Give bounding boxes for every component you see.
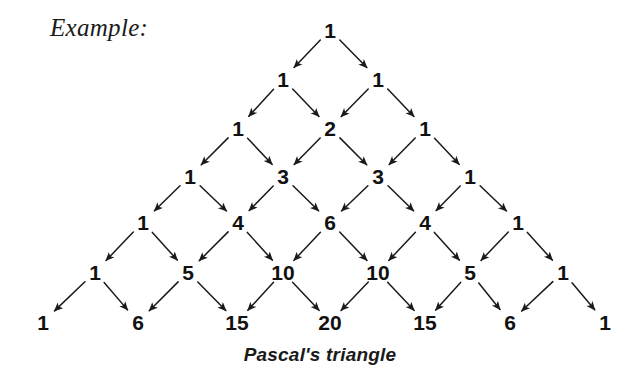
triangle-cell: 1 [419,118,431,139]
triangle-arrow [388,282,414,310]
triangle-arrow [388,89,414,116]
triangle-arrow [149,282,178,311]
triangle-cell: 1 [599,312,611,333]
triangle-arrow [248,282,274,310]
triangle-arrow [389,232,415,260]
triangle-cell: 6 [324,212,336,233]
triangle-cell: 6 [132,312,144,333]
triangle-arrow [248,138,272,164]
triangle-arrow [294,232,320,260]
triangle-arrow [293,186,319,211]
triangle-arrow [341,89,368,117]
triangle-arrow [388,186,414,211]
triangle-cell: 1 [557,262,569,283]
triangle-arrow [522,282,553,311]
triangle-arrow [104,283,127,310]
triangle-cell: 4 [419,212,431,233]
triangle-arrow [481,232,508,260]
triangle-arrow [340,232,367,260]
triangle-arrow [198,282,226,311]
triangle-arrow [294,138,320,165]
triangle-cell: 5 [464,262,476,283]
triangle-arrow [199,232,228,261]
triangle-cell: 1 [89,262,101,283]
triangle-arrow [436,186,460,211]
triangle-arrow [293,282,319,310]
triangle-cell: 1 [464,166,476,187]
triangle-arrow [434,232,459,260]
triangle-cell: 1 [232,118,244,139]
triangle-arrow [106,232,133,260]
triangle-cell: 5 [182,262,194,283]
triangle-arrow [527,232,552,260]
triangle-arrow [55,282,85,311]
triangle-arrow [340,40,367,68]
triangle-arrow [152,232,177,260]
triangle-arrow [436,282,461,310]
triangle-cell: 15 [413,312,436,333]
triangle-arrow [342,186,368,211]
triangle-cell: 15 [225,312,248,333]
triangle-arrow [294,40,320,67]
triangle-arrow [340,138,367,165]
triangle-cell: 1 [137,212,149,233]
triangle-arrow [249,89,274,116]
pascal-triangle-figure: Example: 1111211331146411510105116152015… [0,0,640,386]
triangle-cell: 20 [318,312,341,333]
triangle-cell: 1 [512,212,524,233]
triangle-cell: 1 [372,69,384,90]
triangle-arrow [572,283,595,310]
triangle-cell: 2 [324,118,336,139]
triangle-arrow [249,186,273,211]
triangle-cell: 3 [277,166,289,187]
triangle-arrow [389,138,415,165]
triangle-arrow [247,232,272,260]
triangle-arrow [479,283,500,310]
triangle-cell: 1 [324,20,336,41]
triangle-arrow [201,138,228,165]
triangle-cell: 3 [372,166,384,187]
triangle-cell: 1 [37,312,49,333]
triangle-cell: 4 [232,212,244,233]
triangle-arrow [293,89,319,116]
triangle-cell: 10 [366,262,389,283]
triangle-arrow [154,186,180,211]
triangle-arrow [200,186,226,211]
triangle-cell: 10 [271,262,294,283]
triangle-arrow [480,186,506,211]
triangle-arrow [435,138,459,164]
triangle-cell: 1 [277,69,289,90]
figure-caption: Pascal's triangle [0,344,640,366]
triangle-cell: 1 [184,166,196,187]
triangle-cell: 6 [504,312,516,333]
triangle-arrow [341,282,368,310]
